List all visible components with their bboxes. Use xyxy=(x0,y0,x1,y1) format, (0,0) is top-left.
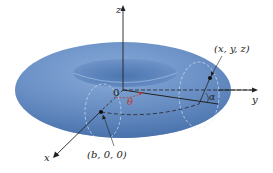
theta-label: θ xyxy=(127,96,133,107)
alpha-label: α xyxy=(209,92,215,102)
point-xyz-label: (x, y, z) xyxy=(214,43,250,54)
origin-label: 0 xyxy=(113,87,119,98)
x-axis-label: x xyxy=(44,152,50,163)
torus-diagram: z y x 0 θ α (x, y, z) (b, 0, 0) xyxy=(0,0,273,173)
point-b00-label: (b, 0, 0) xyxy=(87,149,127,160)
y-axis-label: y xyxy=(251,94,258,105)
point-b00 xyxy=(99,110,103,114)
z-axis-label: z xyxy=(115,4,122,15)
point-xyz xyxy=(208,76,212,80)
